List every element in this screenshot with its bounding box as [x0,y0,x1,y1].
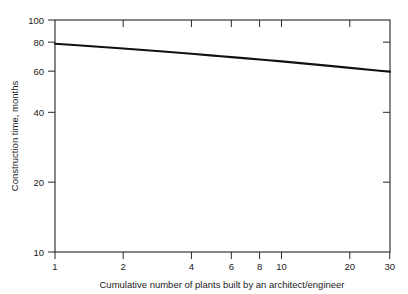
y-tick-label: 40 [33,107,44,118]
x-axis-tick-labels: 1 2 4 6 8 10 20 30 [52,261,395,272]
y-tick-label: 60 [33,66,44,77]
x-tick-label: 4 [189,261,194,272]
y-axis-title: Construction time, months [9,81,20,192]
y-tick-label: 10 [33,247,44,258]
y-tick-label: 100 [28,15,44,26]
y-axis-ticks-right [383,42,390,182]
x-tick-label: 10 [276,261,287,272]
x-tick-label: 8 [257,261,262,272]
plot-frame [55,20,390,252]
x-axis-ticks-bottom [55,252,390,259]
x-axis-title: Cumulative number of plants built by an … [99,279,344,290]
x-axis-ticks-top [123,20,350,27]
x-tick-label: 1 [52,261,57,272]
chart-figure: 100 80 60 40 20 10 1 2 4 6 8 10 20 30 Cu… [0,0,408,294]
y-axis-ticks-left [48,20,55,252]
construction-time-curve [55,44,390,72]
x-tick-label: 30 [384,261,395,272]
x-tick-label: 2 [121,261,126,272]
y-tick-label: 80 [33,37,44,48]
y-tick-label: 20 [33,177,44,188]
y-axis-tick-labels: 100 80 60 40 20 10 [28,15,44,258]
x-tick-label: 20 [345,261,356,272]
axes-box [55,20,390,252]
log-log-line-chart: 100 80 60 40 20 10 1 2 4 6 8 10 20 30 Cu… [0,0,408,294]
x-tick-label: 6 [229,261,234,272]
